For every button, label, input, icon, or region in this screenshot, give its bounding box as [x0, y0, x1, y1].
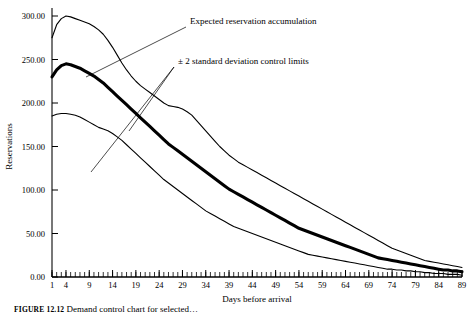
- figure-caption: FIGURE 12.12 Demand control chart for se…: [14, 304, 468, 315]
- x-axis-title: Days before arrival: [222, 294, 292, 304]
- x-tick-label: 19: [132, 280, 141, 290]
- x-tick-label: 54: [295, 280, 304, 290]
- y-tick-label: 300.00: [22, 11, 45, 21]
- series-expected: [52, 64, 462, 272]
- x-tick-label: 39: [225, 280, 234, 290]
- x-tick-label: 79: [411, 280, 420, 290]
- x-tick-label: 1: [50, 280, 54, 290]
- x-tick-label: 4: [64, 280, 69, 290]
- x-tick-label: 9: [87, 280, 91, 290]
- x-tick-label: 34: [202, 280, 211, 290]
- y-tick-label: 100.00: [22, 185, 45, 195]
- x-tick-label: 14: [108, 280, 117, 290]
- expected-leader-line: [86, 27, 186, 77]
- y-tick-label: 200.00: [22, 98, 45, 108]
- x-tick-label: 49: [271, 280, 280, 290]
- y-tick-label: 0.00: [30, 272, 45, 282]
- series-upper-limit: [52, 16, 462, 267]
- x-tick-label: 29: [178, 280, 187, 290]
- x-tick-label: 89: [458, 280, 467, 290]
- control-limits-annotation-label: ± 2 standard deviation control limits: [178, 56, 309, 66]
- figure-container: 0.0050.00100.00150.00200.00250.00300.001…: [0, 0, 468, 317]
- y-axis-title: Reservations: [4, 123, 14, 170]
- y-tick-label: 250.00: [22, 55, 45, 65]
- figure-caption-label: FIGURE 12.12: [14, 305, 64, 314]
- x-tick-label: 44: [248, 280, 257, 290]
- x-tick-label: 84: [434, 280, 443, 290]
- figure-caption-text: Demand control chart for selected…: [67, 304, 198, 314]
- y-tick-label: 50.00: [26, 229, 45, 239]
- expected-annotation-label: Expected reservation accumulation: [190, 16, 317, 26]
- x-tick-label: 74: [388, 280, 397, 290]
- x-tick-label: 24: [155, 280, 164, 290]
- x-tick-label: 64: [341, 280, 350, 290]
- x-tick-label: 69: [365, 280, 374, 290]
- x-tick-label: 59: [318, 280, 327, 290]
- demand-control-chart: 0.0050.00100.00150.00200.00250.00300.001…: [0, 0, 468, 317]
- control-limits-leader-line-upper: [129, 67, 174, 131]
- y-tick-label: 150.00: [22, 142, 45, 152]
